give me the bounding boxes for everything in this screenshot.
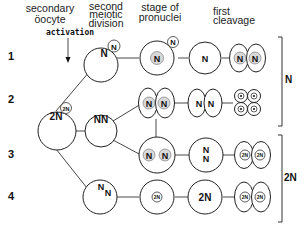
svg-text:N: N bbox=[203, 154, 210, 164]
row1-syngamy-cell: N bbox=[189, 42, 221, 74]
svg-text:pronuclei: pronuclei bbox=[139, 11, 182, 23]
row-label-3: 3 bbox=[8, 148, 14, 160]
header-stage-of-pronuclei: stage of pronuclei bbox=[139, 1, 182, 23]
svg-text:N: N bbox=[162, 151, 169, 161]
svg-text:N: N bbox=[154, 54, 161, 64]
connector-lines bbox=[56, 58, 236, 197]
row2-syngamy-cell: N N bbox=[188, 89, 222, 117]
svg-text:cleavage: cleavage bbox=[213, 14, 255, 26]
parthenogenesis-diagram: secondary öocyte second meiotic division… bbox=[0, 0, 308, 226]
row-label-4: 4 bbox=[8, 190, 15, 202]
svg-text:N: N bbox=[105, 188, 112, 198]
header-second-meiotic-division: second meiotic division bbox=[88, 0, 123, 29]
row2-pronuclei-cell: N N bbox=[139, 88, 175, 118]
svg-text:2N: 2N bbox=[257, 152, 264, 158]
row1-pronucleus-cell: N N bbox=[140, 37, 179, 76]
row4-cleavage-cell: 2N 2N bbox=[235, 182, 271, 212]
svg-text:NN: NN bbox=[94, 114, 108, 125]
row-label-1: 1 bbox=[8, 50, 14, 62]
svg-text:2N: 2N bbox=[284, 172, 297, 183]
svg-text:N: N bbox=[111, 43, 117, 52]
svg-text:N: N bbox=[208, 99, 215, 109]
row3-syngamy-cell: N N bbox=[189, 138, 223, 172]
header-first-cleavage: first cleavage bbox=[213, 5, 255, 26]
svg-text:N: N bbox=[252, 54, 259, 64]
svg-text:N: N bbox=[100, 48, 107, 59]
activation-label: activation bbox=[46, 27, 94, 37]
row3-pronuclei-cell: N N bbox=[139, 137, 175, 173]
svg-text:2N: 2N bbox=[242, 152, 249, 158]
bracket-diploid: 2N bbox=[278, 135, 297, 222]
row2-cleavage-cell bbox=[235, 90, 261, 116]
svg-text:N: N bbox=[170, 38, 175, 47]
row4-division-cell: N N bbox=[83, 180, 117, 214]
svg-text:2N: 2N bbox=[62, 106, 69, 112]
svg-text:N: N bbox=[202, 54, 209, 64]
row3-cleavage-cell: 2N 2N bbox=[235, 142, 271, 169]
svg-text:N: N bbox=[98, 182, 105, 192]
svg-text:N: N bbox=[285, 74, 292, 85]
svg-text:2N: 2N bbox=[154, 194, 161, 200]
bracket-haploid: N bbox=[278, 37, 292, 126]
svg-text:2N: 2N bbox=[199, 192, 212, 203]
svg-text:N: N bbox=[161, 99, 168, 109]
row-label-2: 2 bbox=[8, 93, 14, 105]
row4-pronucleus-cell: 2N bbox=[140, 180, 174, 214]
svg-text:N: N bbox=[196, 99, 203, 109]
svg-text:N: N bbox=[146, 99, 153, 109]
row1-division-cell: N N bbox=[84, 40, 120, 82]
svg-text:N: N bbox=[237, 54, 244, 64]
svg-text:2N: 2N bbox=[257, 194, 264, 200]
row1-cleavage-cell: N N bbox=[230, 44, 266, 72]
activation-arrow-icon bbox=[66, 38, 71, 63]
row2-division-cell: NN bbox=[85, 114, 117, 147]
row4-syngamy-cell: 2N bbox=[188, 180, 222, 214]
header-secondary-oocyte: secondary öocyte bbox=[26, 2, 75, 25]
svg-text:2N: 2N bbox=[242, 194, 249, 200]
svg-text:öocyte: öocyte bbox=[35, 13, 66, 25]
oocyte-nucleus-label: 2N bbox=[50, 111, 63, 122]
svg-text:N: N bbox=[146, 151, 153, 161]
